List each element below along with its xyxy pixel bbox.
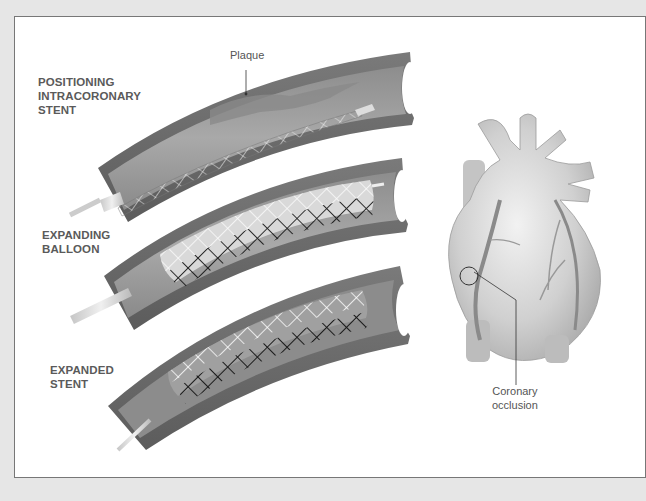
callout-plaque: Plaque [230, 48, 264, 62]
label-expanded-stent: EXPANDED STENT [50, 363, 114, 391]
callout-coronary-occlusion: Coronary occlusion [492, 384, 538, 412]
label-expanding-balloon: EXPANDING BALLOON [42, 228, 110, 256]
heart-illustration [449, 114, 601, 385]
label-positioning-stent: POSITIONING INTRACORONARY STENT [38, 75, 141, 117]
